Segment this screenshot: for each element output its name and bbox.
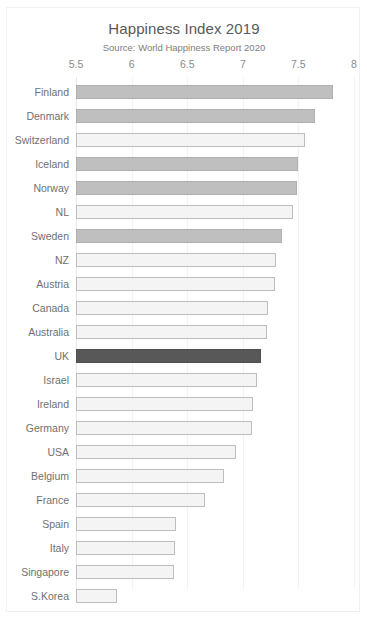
category-label: Canada	[32, 301, 69, 315]
x-tick-label: 7.5	[291, 58, 306, 70]
bar[interactable]	[76, 133, 305, 147]
bar[interactable]	[76, 421, 252, 435]
category-label: NL	[56, 205, 69, 219]
bar-row: Sweden	[76, 229, 354, 243]
bar-row: S.Korea	[76, 589, 354, 603]
bar-row: Finland	[76, 85, 354, 99]
bar[interactable]	[76, 517, 176, 531]
chart-title: Happiness Index 2019	[7, 20, 360, 37]
bar-row: Israel	[76, 373, 354, 387]
x-tick-label: 8	[351, 58, 357, 70]
bar-row: Germany	[76, 421, 354, 435]
x-tick-label: 6	[129, 58, 135, 70]
bar-row: Belgium	[76, 469, 354, 483]
category-label: Switzerland	[15, 133, 69, 147]
category-label: Iceland	[35, 157, 69, 171]
category-label: USA	[47, 445, 69, 459]
bar[interactable]	[76, 541, 175, 555]
bar[interactable]	[76, 181, 297, 195]
bar-row: Iceland	[76, 157, 354, 171]
plot-area: 5.566.577.58 FinlandDenmarkSwitzerlandIc…	[76, 77, 354, 612]
bar[interactable]	[76, 565, 174, 579]
bar-row: Austria	[76, 277, 354, 291]
bar-row: UK	[76, 349, 354, 363]
bar[interactable]	[76, 205, 293, 219]
category-label: Finland	[35, 85, 69, 99]
bar-row: Norway	[76, 181, 354, 195]
bar-row: Spain	[76, 517, 354, 531]
category-label: Austria	[36, 277, 69, 291]
bar-row: NL	[76, 205, 354, 219]
bar[interactable]	[76, 109, 315, 123]
bar[interactable]	[76, 589, 117, 603]
bar-row: France	[76, 493, 354, 507]
category-label: Italy	[50, 541, 69, 555]
category-label: Germany	[26, 421, 69, 435]
bar-row: Denmark	[76, 109, 354, 123]
bar[interactable]	[76, 157, 298, 171]
x-tick-label: 6.5	[180, 58, 195, 70]
bar[interactable]	[76, 325, 267, 339]
bar-row: Australia	[76, 325, 354, 339]
category-label: Denmark	[26, 109, 69, 123]
bar-row: NZ	[76, 253, 354, 267]
category-label: France	[36, 493, 69, 507]
x-tick-label: 5.5	[69, 58, 84, 70]
bar-row: Ireland	[76, 397, 354, 411]
category-label: Belgium	[31, 469, 69, 483]
category-label: Israel	[43, 373, 69, 387]
category-label: Spain	[42, 517, 69, 531]
bar[interactable]	[76, 469, 224, 483]
bar[interactable]	[76, 373, 257, 387]
bar[interactable]	[76, 301, 268, 315]
bar-row: USA	[76, 445, 354, 459]
category-label: Australia	[28, 325, 69, 339]
bar[interactable]	[76, 277, 275, 291]
category-label: UK	[54, 349, 69, 363]
bar[interactable]	[76, 229, 282, 243]
chart-subtitle: Source: World Happiness Report 2020	[7, 42, 360, 53]
bar[interactable]	[76, 445, 236, 459]
bar[interactable]	[76, 349, 261, 363]
category-label: Sweden	[31, 229, 69, 243]
x-tick-label: 7	[240, 58, 246, 70]
bar[interactable]	[76, 253, 276, 267]
category-label: Norway	[33, 181, 69, 195]
bar[interactable]	[76, 397, 253, 411]
gridline	[354, 77, 355, 589]
category-label: Singapore	[21, 565, 69, 579]
bar-row: Italy	[76, 541, 354, 555]
category-label: S.Korea	[31, 589, 69, 603]
bar[interactable]	[76, 85, 333, 99]
category-label: NZ	[55, 253, 69, 267]
chart-container: Happiness Index 2019 Source: World Happi…	[6, 7, 360, 612]
bar-row: Singapore	[76, 565, 354, 579]
bar[interactable]	[76, 493, 205, 507]
bar-row: Canada	[76, 301, 354, 315]
category-label: Ireland	[37, 397, 69, 411]
bar-row: Switzerland	[76, 133, 354, 147]
